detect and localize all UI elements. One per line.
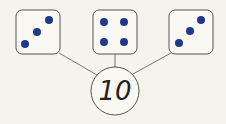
die-right [169,10,213,54]
pip [100,38,108,46]
pip [175,39,183,47]
pip [100,18,108,26]
pip [197,16,205,24]
number-bond-diagram: 10 [0,0,226,124]
pip [21,40,29,48]
pip [120,38,128,46]
whole-circle: 10 [91,67,139,115]
whole-value: 10 [98,76,131,106]
pip [120,18,128,26]
pip [33,28,41,36]
die-middle [93,10,137,54]
pip [186,27,194,35]
die-left [16,10,60,54]
connector-left [59,53,97,75]
pip [45,16,53,24]
connector-right [133,53,171,74]
